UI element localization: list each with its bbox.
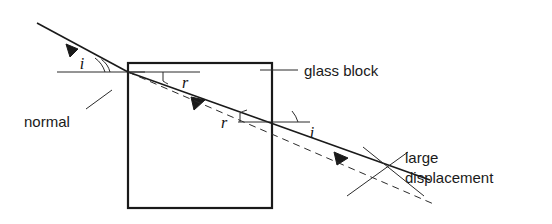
- diagram-canvas: i normal r r i large displacement: [0, 0, 552, 224]
- incident-ray-arrowhead: [66, 44, 78, 57]
- emergent-ray-arrowhead: [334, 152, 348, 165]
- glass-block-rectangle: [128, 63, 272, 208]
- angle-r-entry-arc: [163, 81, 168, 84]
- glass-block-label: glass block: [304, 62, 379, 79]
- angle-i-exit-arc: [292, 111, 298, 122]
- large-displacement-label-line1: large: [405, 149, 438, 166]
- normal-label: normal: [24, 113, 70, 130]
- refraction-diagram: i normal r r i large displacement: [0, 0, 552, 224]
- undeviated-path-dashed-line: [128, 72, 436, 205]
- angle-r-exit-label: r: [221, 114, 228, 131]
- angle-r-entry-label: r: [182, 74, 189, 91]
- angle-i-entry-arc-inner: [95, 58, 105, 72]
- refracted-ray-inside-block: [128, 72, 268, 122]
- angle-i-entry-label: i: [80, 55, 84, 72]
- large-displacement-label-line2: displacement: [405, 169, 494, 186]
- normal-label-leader-line: [86, 90, 112, 109]
